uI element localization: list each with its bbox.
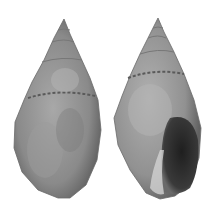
image-canvas (0, 0, 222, 219)
shell-dorsal-view (14, 19, 101, 198)
aperture (161, 117, 198, 194)
shells-illustration (0, 0, 222, 219)
shell-apertural-view (114, 18, 201, 199)
